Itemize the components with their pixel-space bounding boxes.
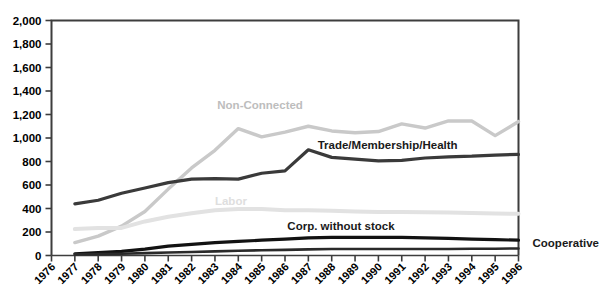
line-chart: 2,0001,8001,6001,4001,2001,0008006004002… (0, 0, 601, 302)
series-label-4: Cooperative (533, 237, 599, 249)
y-tick-label: 2,000 (13, 15, 42, 27)
series-label-2: Labor (215, 195, 247, 207)
y-tick-label: 800 (22, 156, 41, 168)
x-tick-label: 1984 (218, 260, 244, 286)
chart-canvas: 2,0001,8001,6001,4001,2001,0008006004002… (0, 0, 601, 302)
series-label-1: Trade/Membership/Health (318, 139, 458, 151)
x-tick-label: 1985 (242, 260, 268, 286)
plot-frame (52, 21, 519, 256)
x-tick-label: 1988 (312, 260, 338, 286)
x-tick-label: 1980 (125, 260, 151, 286)
y-tick-label: 200 (22, 226, 41, 238)
x-tick-label: 1983 (195, 260, 221, 286)
series-line-3 (75, 237, 519, 253)
x-tick-label: 1976 (32, 260, 58, 286)
series-line-1 (75, 150, 519, 204)
x-tick-label: 1987 (288, 260, 314, 286)
series-label-3: Corp. without stock (287, 220, 395, 232)
x-tick-label: 1996 (499, 260, 525, 286)
x-tick-label: 1993 (429, 260, 455, 286)
x-axis-ticks: 1976197719781979198019811982198319841985… (32, 256, 525, 287)
x-tick-label: 1989 (335, 260, 361, 286)
y-tick-label: 0 (35, 250, 41, 262)
y-tick-label: 400 (22, 203, 41, 215)
x-tick-label: 1978 (78, 260, 104, 286)
x-tick-label: 1979 (102, 260, 128, 286)
x-tick-label: 1994 (452, 260, 478, 286)
x-tick-label: 1977 (55, 260, 81, 286)
y-tick-label: 1,800 (13, 38, 42, 50)
y-tick-label: 1,400 (13, 85, 42, 97)
y-axis-ticks: 2,0001,8001,6001,4001,2001,0008006004002… (13, 15, 52, 262)
y-tick-label: 1,200 (13, 109, 42, 121)
x-tick-label: 1981 (148, 260, 174, 286)
x-tick-label: 1991 (382, 260, 408, 286)
x-tick-label: 1990 (359, 260, 385, 286)
y-tick-label: 600 (22, 179, 41, 191)
x-tick-label: 1992 (405, 260, 431, 286)
x-tick-label: 1995 (475, 260, 501, 286)
y-tick-label: 1,000 (13, 132, 42, 144)
plot-border (52, 21, 519, 256)
x-tick-label: 1986 (265, 260, 291, 286)
x-tick-label: 1982 (172, 260, 198, 286)
series-label-0: Non-Connected (217, 99, 303, 111)
y-tick-label: 1,600 (13, 62, 42, 74)
